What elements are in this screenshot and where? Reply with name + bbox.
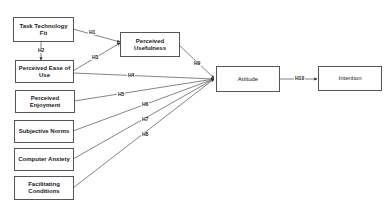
label-h6: H6 bbox=[141, 102, 149, 107]
node-perceived-ease-of-use: Perceived Ease of Use bbox=[15, 60, 74, 83]
label-h7: H7 bbox=[141, 117, 149, 122]
label-h5: H5 bbox=[117, 92, 125, 97]
label-h3: H3 bbox=[91, 55, 99, 60]
edge-h1 bbox=[73, 29, 120, 42]
node-subjective-norms: Subjective Norms bbox=[14, 120, 74, 143]
node-attitude: Attitude bbox=[216, 66, 280, 92]
research-model-diagram: Task Technology Fit Perceived Ease of Us… bbox=[0, 0, 390, 209]
edge-h4 bbox=[73, 73, 214, 79]
node-perceived-usefulness: Perceived Usefulness bbox=[120, 32, 180, 57]
node-intention: Intention bbox=[318, 66, 382, 91]
label-h8: H8 bbox=[141, 132, 149, 137]
node-facilitating-conditions: Facilitating Conditions bbox=[14, 176, 74, 200]
label-h9: H9 bbox=[193, 61, 201, 66]
edge-h5 bbox=[74, 79, 214, 101]
label-h4: H4 bbox=[127, 73, 135, 78]
label-h2: H2 bbox=[37, 48, 45, 53]
node-task-technology-fit: Task Technology Fit bbox=[13, 17, 74, 42]
label-h10: H10 bbox=[294, 76, 305, 81]
node-computer-anxiety: Computer Anxiety bbox=[14, 148, 74, 171]
node-perceived-enjoyment: Perceived Enjoyment bbox=[15, 90, 75, 113]
label-h1: H1 bbox=[88, 30, 96, 35]
